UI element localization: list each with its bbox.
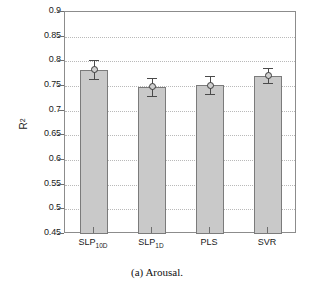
bar [138, 87, 166, 234]
data-point-marker [91, 66, 98, 73]
bar [196, 85, 224, 234]
y-axis-title: R2 [3, 115, 43, 133]
error-bar-cap-lower [263, 83, 273, 84]
gridline [65, 61, 295, 62]
plot-frame [64, 11, 296, 233]
x-axis-tick-label: SLP10D [63, 237, 123, 247]
x-axis-tick-label-subscript: 1D [155, 242, 163, 249]
error-bar-cap-upper [205, 76, 215, 77]
x-axis-tick-label: SLP1D [121, 237, 181, 247]
error-bar-cap-lower [89, 79, 99, 80]
x-axis-tick-label-subscript: 10D [96, 242, 108, 249]
x-axis-tick-label: PLS [179, 237, 239, 247]
data-point-marker [207, 82, 214, 89]
x-axis-tick-label-base: PLS [200, 237, 217, 247]
error-bar-cap-lower [147, 96, 157, 97]
error-bar-cap-upper [263, 68, 273, 69]
x-axis-tick-mark [151, 227, 152, 233]
x-axis-tick-mark [267, 227, 268, 233]
y-axis-tick-mark [58, 233, 64, 234]
bar [254, 76, 282, 234]
x-axis-tick-label-base: SLP [138, 237, 155, 247]
gridline [65, 37, 295, 38]
data-point-marker [265, 72, 272, 79]
x-axis-tick-label: SVR [237, 237, 297, 247]
figure-caption: (a) Arousal. [0, 266, 314, 278]
x-axis-tick-mark [209, 227, 210, 233]
x-axis-tick-label-base: SVR [258, 237, 277, 247]
error-bar-cap-lower [205, 94, 215, 95]
error-bar-cap-upper [147, 78, 157, 79]
error-bar-cap-upper [89, 60, 99, 61]
figure-arousal-r2-barchart: R2 0.90.850.80.750.70.650.60.550.50.45 S… [0, 0, 314, 299]
y-axis-title-base: R [18, 122, 29, 129]
x-axis-tick-label-base: SLP [79, 237, 96, 247]
x-axis-tick-mark [93, 227, 94, 233]
plot-area [65, 12, 295, 232]
bar [80, 70, 108, 234]
